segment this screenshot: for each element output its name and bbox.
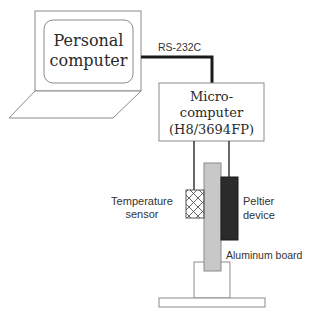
base-plate [159,298,265,307]
micro-label-line2: computer [180,105,244,120]
micro-label-line1: Micro- [190,89,233,104]
peltier-label-line1: Peltier [243,195,275,207]
micro-label-line3: (H8/3694FP) [169,122,254,137]
pc-label-line1: Personal [54,31,124,50]
rs232c-label: RS-232C [158,41,202,53]
peltier-label-line2: device [243,209,275,221]
experimental-setup-diagram: Personal computer RS-232C Micro- compute… [0,0,315,318]
pc-label-line2: computer [50,51,128,70]
laptop-computer: Personal computer [9,11,141,118]
temperature-sensor [186,190,204,218]
rs232c-cable [141,57,212,83]
microcomputer-box: Micro- computer (H8/3694FP) [159,83,264,141]
laptop-keyboard-base [9,91,141,118]
temperature-sensor-label-line2: sensor [125,208,158,220]
peltier-device [221,177,238,240]
aluminum-board-label: Aluminum board [226,249,303,261]
temperature-sensor-label-line1: Temperature [111,195,173,207]
aluminum-board [204,163,221,271]
